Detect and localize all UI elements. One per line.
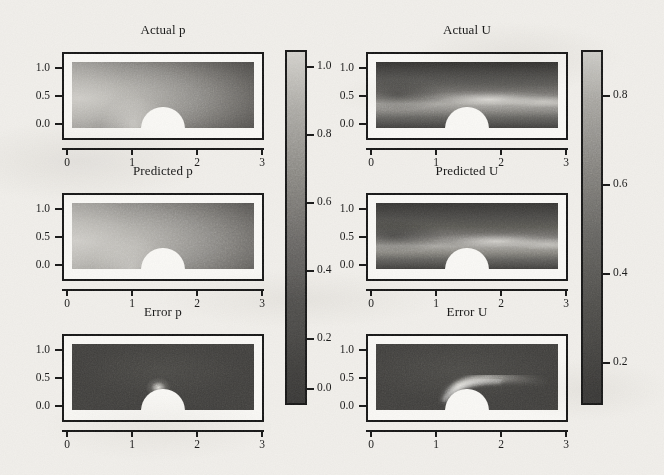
xtick-label-error-p-4: 3 xyxy=(246,438,278,450)
axes-error-U xyxy=(366,334,568,422)
heatmap-predicted-p xyxy=(72,203,254,269)
ytick-label-predicted-U-3: 0.0 xyxy=(320,258,354,270)
xtick-label-error-U-4: 3 xyxy=(550,438,582,450)
xtick-mark xyxy=(131,430,133,437)
xtick-mark xyxy=(565,430,567,437)
xtick-label-error-p-1: 0 xyxy=(51,438,83,450)
xtick-mark xyxy=(261,430,263,437)
colorbar-right-label-3: 0.4 xyxy=(613,266,627,278)
ytick-label-predicted-U-1: 1.0 xyxy=(320,202,354,214)
ytick-label-error-p-1: 1.0 xyxy=(16,343,50,355)
ytick-label-error-p-2: 0.5 xyxy=(16,371,50,383)
panel-predicted-U: Predicted U 1.0 0.5 0.0 0 1 2 3 xyxy=(304,141,594,301)
ytick-mark xyxy=(55,377,62,379)
panel-error-p: Error p 1.0 0.5 0.0 0 1 2 3 xyxy=(0,282,290,442)
colorbar-right-tick xyxy=(603,273,610,275)
ytick-mark xyxy=(359,95,366,97)
ytick-mark xyxy=(55,208,62,210)
ytick-label-actual-U-3: 0.0 xyxy=(320,117,354,129)
xtick-mark xyxy=(196,430,198,437)
colorbar-right-label-4: 0.2 xyxy=(613,355,627,367)
ytick-mark xyxy=(359,67,366,69)
colorbar-right-label-2: 0.6 xyxy=(613,177,627,189)
colorbar-right-tick xyxy=(603,362,610,364)
heatmap-actual-p xyxy=(72,62,254,128)
panel-title-actual-U: Actual U xyxy=(366,22,568,38)
xtick-mark xyxy=(370,430,372,437)
heatmap-predicted-U xyxy=(376,203,558,269)
ytick-label-actual-p-3: 0.0 xyxy=(16,117,50,129)
ytick-mark xyxy=(55,405,62,407)
colorbar-right-label-1: 0.8 xyxy=(613,88,627,100)
panel-actual-p: Actual p 1.0 0.5 0.0 0 1 2 3 xyxy=(0,0,290,160)
ytick-mark xyxy=(359,349,366,351)
ytick-label-predicted-p-1: 1.0 xyxy=(16,202,50,214)
ytick-label-error-p-3: 0.0 xyxy=(16,399,50,411)
heatmap-actual-U xyxy=(376,62,558,128)
panel-title-predicted-p: Predicted p xyxy=(62,163,264,179)
xtick-label-error-U-2: 1 xyxy=(420,438,452,450)
x-axis-spine-error-p xyxy=(62,430,264,432)
ytick-label-predicted-p-3: 0.0 xyxy=(16,258,50,270)
ytick-label-error-U-2: 0.5 xyxy=(320,371,354,383)
axes-actual-U xyxy=(366,52,568,140)
ytick-label-actual-U-1: 1.0 xyxy=(320,61,354,73)
ytick-label-actual-U-2: 0.5 xyxy=(320,89,354,101)
xtick-mark xyxy=(66,430,68,437)
colorbar-right xyxy=(581,50,603,405)
xtick-label-error-p-2: 1 xyxy=(116,438,148,450)
ytick-mark xyxy=(55,67,62,69)
ytick-mark xyxy=(359,236,366,238)
panel-title-actual-p: Actual p xyxy=(62,22,264,38)
ytick-label-actual-p-2: 0.5 xyxy=(16,89,50,101)
panel-error-U: Error U xyxy=(304,282,594,442)
axes-predicted-U xyxy=(366,193,568,281)
ytick-mark xyxy=(359,264,366,266)
ytick-mark xyxy=(55,123,62,125)
panel-title-predicted-U: Predicted U xyxy=(366,163,568,179)
colorbar-right-tick xyxy=(603,184,610,186)
ytick-label-predicted-p-2: 0.5 xyxy=(16,230,50,242)
heatmap-error-p xyxy=(72,344,254,410)
ytick-mark xyxy=(55,95,62,97)
heatmap-error-U xyxy=(376,344,558,410)
ytick-label-predicted-U-2: 0.5 xyxy=(320,230,354,242)
ytick-mark xyxy=(359,123,366,125)
ytick-mark xyxy=(359,377,366,379)
ytick-label-error-U-3: 0.0 xyxy=(320,399,354,411)
ytick-mark xyxy=(55,264,62,266)
ytick-label-actual-p-1: 1.0 xyxy=(16,61,50,73)
ytick-mark xyxy=(359,208,366,210)
axes-error-p xyxy=(62,334,264,422)
ytick-mark xyxy=(55,349,62,351)
ytick-mark xyxy=(55,236,62,238)
xtick-mark xyxy=(435,430,437,437)
xtick-label-error-p-3: 2 xyxy=(181,438,213,450)
axes-actual-p xyxy=(62,52,264,140)
panel-predicted-p: Predicted p 1.0 0.5 0.0 0 1 2 3 xyxy=(0,141,290,301)
ytick-mark xyxy=(359,405,366,407)
axes-predicted-p xyxy=(62,193,264,281)
panel-title-error-U: Error U xyxy=(366,304,568,320)
xtick-mark xyxy=(500,430,502,437)
xtick-label-error-U-1: 0 xyxy=(355,438,387,450)
x-axis-spine-error-U xyxy=(366,430,568,432)
colorbar-right-tick xyxy=(603,95,610,97)
xtick-label-error-U-3: 2 xyxy=(485,438,517,450)
panel-actual-U: Actual U 1.0 0.5 0.0 0 1 2 3 xyxy=(304,0,594,160)
panel-title-error-p: Error p xyxy=(62,304,264,320)
ytick-label-error-U-1: 1.0 xyxy=(320,343,354,355)
